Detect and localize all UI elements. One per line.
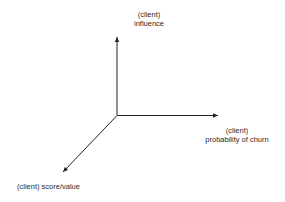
influence-label-line2: influence: [134, 19, 164, 28]
churn-label-line1: (client): [205, 126, 268, 135]
axes-diagram: [0, 0, 285, 202]
diagonal-axis-arrow: [63, 116, 117, 173]
score-value-axis-label: (client) score/value: [17, 182, 80, 191]
influence-axis-label: (client) influence: [134, 10, 164, 28]
churn-axis-label: (client) probability of churn: [205, 126, 268, 144]
churn-label-line2: probability of churn: [205, 135, 268, 144]
influence-label-line1: (client): [134, 10, 164, 19]
